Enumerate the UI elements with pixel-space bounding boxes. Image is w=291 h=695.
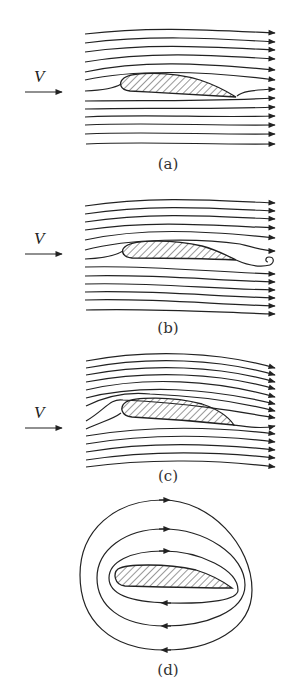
freestream-label-c: V: [34, 404, 44, 421]
panel-c: [25, 354, 275, 467]
figure-canvas: [0, 0, 291, 695]
panel-label-d: (d): [157, 663, 178, 678]
panel-label-c: (c): [158, 469, 178, 484]
panel-d: [80, 500, 252, 650]
panel-a: [25, 29, 275, 144]
airfoil: [123, 241, 236, 260]
airfoil: [121, 73, 236, 97]
airfoil: [115, 565, 232, 588]
starting-vortex: [266, 257, 273, 265]
freestream-label-a: V: [34, 68, 44, 85]
panel-label-b: (b): [157, 321, 178, 336]
panel-b: [25, 200, 275, 314]
airfoil-streamline-figure: V V V (a) (b) (c) (d): [0, 0, 291, 695]
freestream-label-b: V: [34, 230, 44, 247]
airfoil: [122, 398, 234, 425]
panel-label-a: (a): [158, 157, 179, 172]
